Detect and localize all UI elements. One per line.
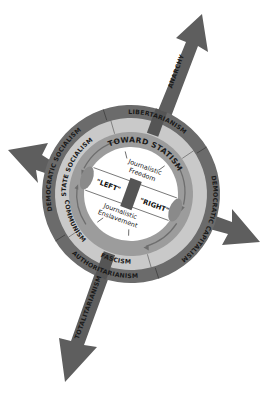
anarchy-arrow <box>155 14 208 122</box>
political-spectrum-diagram: LIBERTARIANISM AUTHORITARIANISM DEMOCRAT… <box>0 0 266 395</box>
wheel: LIBERTARIANISM AUTHORITARIANISM DEMOCRAT… <box>17 80 245 308</box>
